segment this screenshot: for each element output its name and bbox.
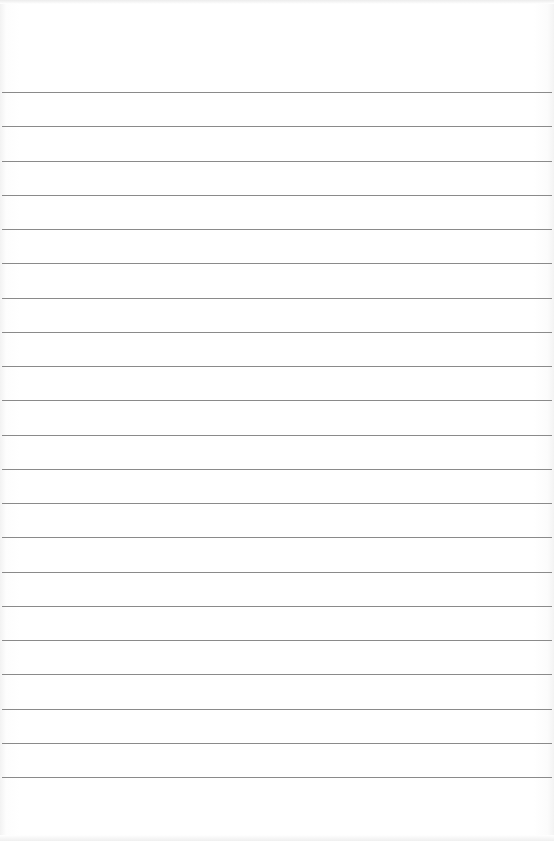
ruled-line [2,126,552,127]
ruled-line [2,572,552,573]
ruled-line [2,435,552,436]
ruled-line [2,743,552,744]
ruled-line [2,537,552,538]
ruled-line [2,606,552,607]
ruled-line [2,298,552,299]
ruled-line [2,503,552,504]
ruled-line [2,640,552,641]
ruled-line [2,469,552,470]
ruled-line [2,777,552,778]
ruled-line [2,366,552,367]
ruled-line [2,332,552,333]
lined-paper-sheet [0,0,554,841]
ruled-line [2,195,552,196]
ruled-line [2,229,552,230]
ruled-line [2,263,552,264]
paper-bottom-edge [0,835,554,841]
ruled-line [2,400,552,401]
ruled-line [2,674,552,675]
ruled-line [2,92,552,93]
ruled-line [2,709,552,710]
ruled-line [2,161,552,162]
paper-top-edge [0,0,554,4]
